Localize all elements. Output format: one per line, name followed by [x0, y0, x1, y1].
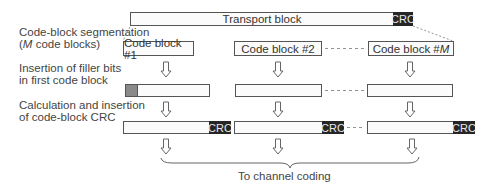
arrow-down-icon [273, 62, 283, 77]
brace [161, 157, 419, 168]
arrow-down-icon [161, 102, 171, 117]
dashed-split-right [413, 26, 453, 41]
arrow-down-icon [407, 139, 417, 154]
arrow-down-icon [405, 62, 415, 77]
arrow-down-icon [273, 139, 283, 154]
arrow-down-icon [161, 62, 171, 77]
arrow-down-icon [161, 139, 171, 154]
dashed-split-left [123, 27, 130, 41]
output-label: To channel coding [238, 170, 331, 182]
arrow-down-icon [273, 102, 283, 117]
arrow-down-icon [405, 102, 415, 117]
connectors [0, 0, 493, 186]
